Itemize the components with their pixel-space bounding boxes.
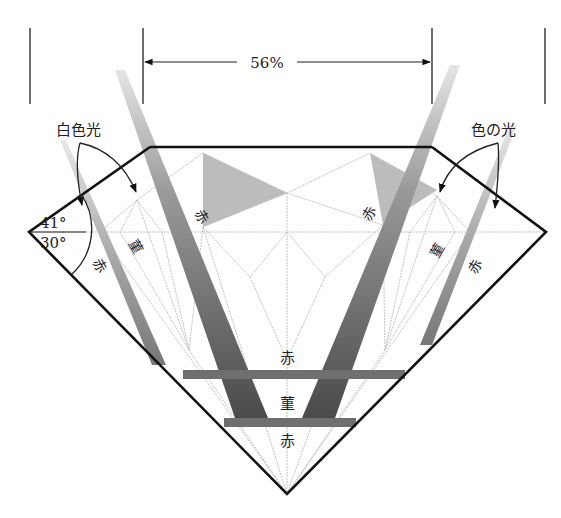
table-width-dimension: 56% [145, 54, 430, 72]
red-label-right-outer: 赤 [465, 256, 486, 276]
pavilion-angle-label: 30° [40, 234, 67, 252]
red-label-right-inner: 赤 [359, 203, 380, 223]
right-exit-beam [302, 65, 460, 418]
upper-horizontal-band [183, 370, 405, 379]
lower-horizontal-band [224, 418, 356, 427]
white-light-arrow-right [80, 143, 136, 192]
center-label-violet: 菫 [280, 395, 295, 413]
center-label-red-bottom: 赤 [280, 432, 295, 450]
violet-label-left: 菫 [125, 237, 146, 257]
violet-label-right: 菫 [427, 240, 448, 260]
guide-lines [30, 28, 545, 104]
diamond-dispersion-diagram: 56% [0, 0, 561, 518]
colored-light-label: 色の光 [471, 121, 516, 139]
crown-angle-label: 41° [40, 214, 67, 232]
red-label-left-outer: 赤 [89, 256, 110, 276]
white-light-label: 白色光 [56, 121, 101, 139]
table-width-label: 56% [250, 54, 283, 72]
center-label-red-top: 赤 [280, 349, 295, 367]
